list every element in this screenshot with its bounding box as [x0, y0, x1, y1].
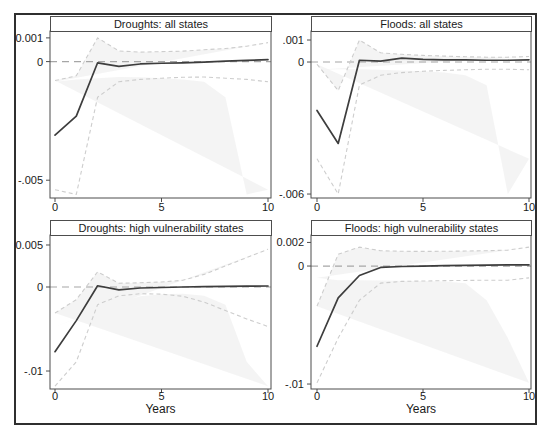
- svg-text:0: 0: [37, 56, 43, 68]
- svg-text:.001: .001: [283, 34, 304, 46]
- svg-text:5: 5: [158, 390, 164, 402]
- svg-text:-.01: -.01: [24, 365, 43, 377]
- svg-text:0: 0: [37, 281, 43, 293]
- svg-text:10: 10: [262, 390, 274, 402]
- svg-text:5: 5: [420, 201, 426, 213]
- figure: Droughts: all states Floods: all states …: [0, 0, 550, 439]
- svg-text:-.006: -.006: [279, 188, 304, 200]
- svg-text:0.002: 0.002: [276, 236, 304, 248]
- panel-title-floods-all-states: Floods: all states: [311, 16, 532, 32]
- panel-title-droughts-all-states: Droughts: all states: [50, 16, 272, 32]
- x-axis-label-years-left: Years: [50, 402, 271, 416]
- chart-droughts-all-states: 0.0010-.0050510: [14, 13, 276, 213]
- chart-floods-high-vulnerability: 0.0020-.010510: [276, 213, 537, 426]
- svg-text:0: 0: [298, 260, 304, 272]
- panel-title-droughts-high-vulnerability: Droughts: high vulnerability states: [50, 220, 272, 236]
- svg-text:10: 10: [262, 201, 274, 213]
- svg-text:10: 10: [523, 201, 535, 213]
- chart-droughts-high-vulnerability: 0.0050-.010510: [14, 213, 276, 426]
- panel-title-floods-high-vulnerability: Floods: high vulnerability states: [311, 220, 532, 236]
- svg-text:0: 0: [52, 201, 58, 213]
- svg-text:5: 5: [420, 390, 426, 402]
- x-axis-label-years-right: Years: [311, 402, 531, 416]
- svg-text:-.01: -.01: [285, 378, 304, 390]
- svg-text:-.005: -.005: [18, 174, 43, 186]
- svg-text:0: 0: [314, 201, 320, 213]
- svg-text:0.005: 0.005: [15, 239, 43, 251]
- svg-text:5: 5: [158, 201, 164, 213]
- svg-text:0: 0: [52, 390, 58, 402]
- chart-floods-all-states: .0010-.0060510: [276, 13, 537, 213]
- svg-text:0: 0: [314, 390, 320, 402]
- svg-text:0.001: 0.001: [15, 32, 43, 44]
- svg-text:0: 0: [298, 56, 304, 68]
- svg-text:10: 10: [523, 390, 535, 402]
